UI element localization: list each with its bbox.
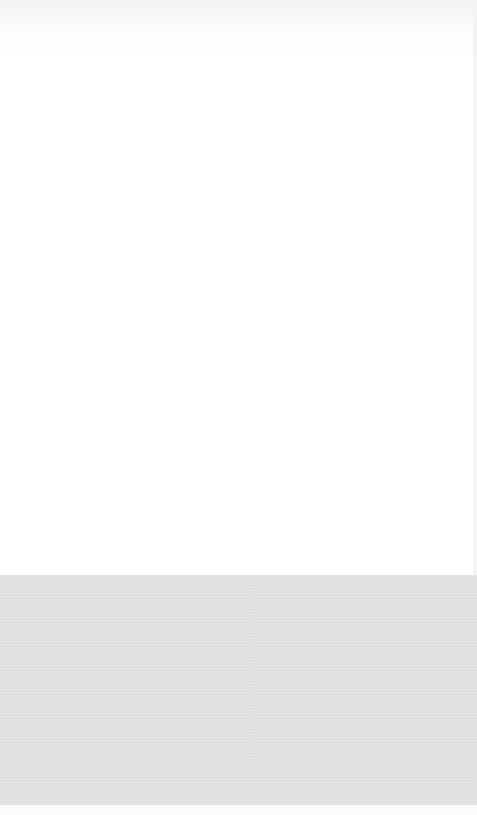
blank-screen: [0, 0, 477, 815]
gray-bottom-panel: [0, 575, 477, 805]
blank-content-area: [0, 0, 477, 575]
bottom-edge-strip: [0, 805, 477, 815]
